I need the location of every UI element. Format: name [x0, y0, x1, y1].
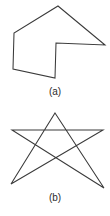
pentagram-star-figure	[0, 105, 110, 195]
figure-a-caption: (a)	[0, 86, 110, 98]
concave-polygon-figure	[0, 0, 110, 86]
concave-polygon-outline	[13, 6, 105, 78]
pentagram-star-outline	[11, 113, 104, 188]
figure-b-block: (b)	[0, 105, 110, 216]
figure-sheet: (a) (b)	[0, 0, 110, 216]
figure-b-caption: (b)	[0, 192, 110, 204]
figure-a-block: (a)	[0, 0, 110, 108]
